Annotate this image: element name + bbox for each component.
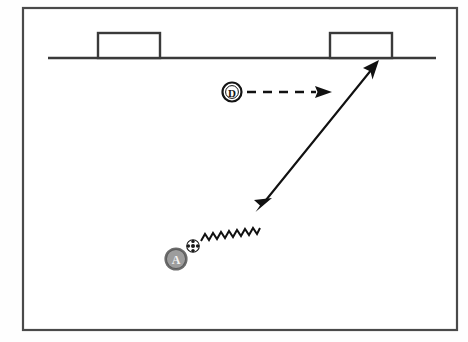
- soccer-ball-patch-right: [196, 244, 199, 247]
- attacker-marker-label: A: [172, 253, 181, 267]
- soccer-ball-patch-bottom: [191, 249, 194, 252]
- soccer-drill-diagram: D A: [0, 0, 468, 342]
- goal-left: [98, 33, 160, 58]
- soccer-ball-center-patch: [191, 244, 195, 248]
- defender-marker-label: D: [228, 87, 236, 99]
- attacker-marker-a[interactable]: A: [164, 247, 187, 270]
- soccer-ball-patch-left: [187, 244, 190, 247]
- diagram-canvas: D A: [0, 0, 468, 342]
- defender-marker-d[interactable]: D: [223, 83, 242, 102]
- soccer-ball-icon: [187, 240, 200, 253]
- goal-right: [330, 33, 392, 58]
- soccer-ball-patch-top: [191, 240, 194, 243]
